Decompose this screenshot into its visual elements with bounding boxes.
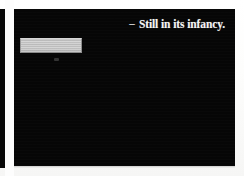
presentation-slide[interactable]: –Still in its infancy. [14, 9, 235, 166]
redacted-placeholder-block[interactable] [20, 38, 82, 53]
slide-gutter [5, 0, 14, 176]
slide-scan-noise [14, 9, 235, 166]
slide-drop-shadow [14, 166, 235, 168]
scan-artifact-speck [54, 58, 59, 61]
placeholder-scanlines [21, 39, 81, 52]
bullet-dash-marker: – [129, 17, 135, 29]
slide-bullet-line: –Still in its infancy. [14, 14, 225, 32]
bullet-text: Still in its infancy. [139, 18, 225, 30]
